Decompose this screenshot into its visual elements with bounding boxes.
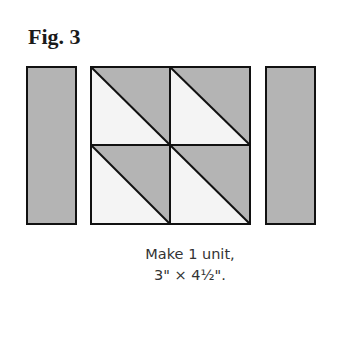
hst-top-left	[91, 67, 170, 145]
quilt-unit-diagram	[0, 0, 342, 341]
center-block	[91, 67, 250, 224]
right-strip	[266, 67, 315, 224]
hst-top-right	[170, 67, 250, 145]
caption-line-2: 3" × 4½".	[90, 265, 290, 285]
left-strip	[27, 67, 76, 224]
hst-bottom-right	[170, 145, 250, 224]
hst-bottom-left	[91, 145, 170, 224]
caption-line-1: Make 1 unit,	[90, 244, 290, 264]
